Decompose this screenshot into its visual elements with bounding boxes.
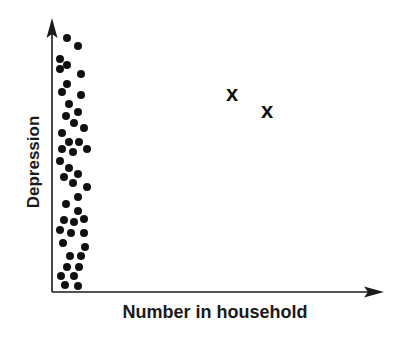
data-point-dot <box>56 65 64 73</box>
data-point-dot <box>60 173 68 181</box>
data-point-dot <box>65 100 73 108</box>
data-point-dot <box>70 218 78 226</box>
data-point-dot <box>56 157 64 165</box>
data-point-dot <box>63 61 71 69</box>
data-point-dot <box>74 193 82 201</box>
data-point-dot <box>74 108 82 116</box>
data-point-dot <box>75 138 83 146</box>
data-point-dot <box>77 252 85 260</box>
data-point-x-mark: x <box>226 81 239 106</box>
data-point-dot <box>56 55 64 63</box>
data-point-dot <box>80 124 88 132</box>
data-point-dot <box>70 119 78 127</box>
data-point-dot <box>74 42 82 50</box>
data-point-dot <box>81 243 89 251</box>
data-point-dot <box>74 282 82 290</box>
y-axis-label: Depression <box>24 116 43 209</box>
scatter-chart: xx Depression Number in household <box>0 0 407 340</box>
data-point-dot <box>67 229 75 237</box>
data-points-x-marks: xx <box>226 81 274 123</box>
data-point-dot <box>63 34 71 42</box>
data-point-dot <box>83 183 91 191</box>
data-point-dot <box>56 226 64 234</box>
data-point-dot <box>58 129 66 137</box>
data-point-dot <box>63 80 71 88</box>
data-point-dot <box>63 263 71 271</box>
data-point-dot <box>70 272 78 280</box>
data-point-dot <box>80 229 88 237</box>
data-point-dot <box>75 263 83 271</box>
data-point-dot <box>62 112 70 120</box>
data-point-dot <box>69 179 77 187</box>
data-point-dot <box>69 148 77 156</box>
data-point-dot <box>83 145 91 153</box>
data-point-dot <box>77 70 85 78</box>
x-axis-label: Number in household <box>122 302 307 322</box>
data-point-dot <box>74 207 82 215</box>
data-point-dot <box>66 252 74 260</box>
data-point-dot <box>60 216 68 224</box>
data-point-dot <box>59 239 67 247</box>
data-point-dot <box>74 170 82 178</box>
data-point-dot <box>65 164 73 172</box>
data-point-dot <box>77 91 85 99</box>
data-point-dot <box>58 88 66 96</box>
data-point-dot <box>57 272 65 280</box>
data-point-dot <box>62 200 70 208</box>
data-point-dot <box>80 215 88 223</box>
data-point-dot <box>61 281 69 289</box>
axes <box>47 18 385 298</box>
data-point-x-mark: x <box>261 98 274 123</box>
data-point-dot <box>58 145 66 153</box>
data-point-dot <box>65 138 73 146</box>
data-points-dots <box>56 34 91 290</box>
